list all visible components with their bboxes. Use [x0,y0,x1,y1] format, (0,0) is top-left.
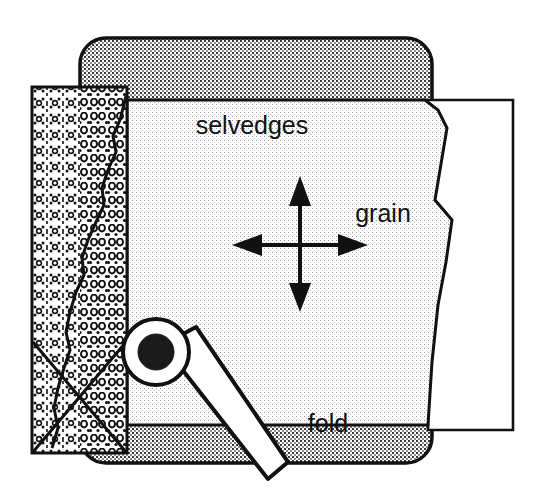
grain-arrow-shaft-horizontal [248,243,353,247]
fabric-print-texture-b [80,87,127,453]
label-grain: grain [355,199,411,227]
fabric-cutting-diagram: selvedges grain fold [0,0,547,494]
rotary-cutter-hub [138,334,174,370]
label-selvedges: selvedges [196,111,309,139]
label-fold: fold [308,409,348,437]
figure-root: selvedges grain fold [0,0,547,494]
